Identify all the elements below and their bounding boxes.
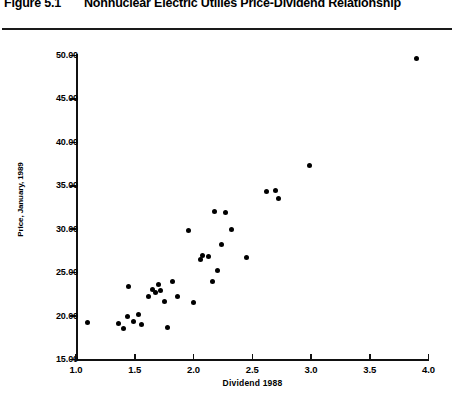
y-axis-tick-label-wrap: 35.00 xyxy=(0,180,78,191)
data-point xyxy=(210,279,215,284)
y-axis-tick-label: 35.00 xyxy=(34,180,78,190)
x-axis-tick-label: 1.5 xyxy=(115,364,155,375)
data-point xyxy=(200,253,205,258)
x-axis-tick-label: 4.0 xyxy=(409,364,449,375)
y-axis-tick-label: 20.00 xyxy=(34,311,78,321)
x-axis-tick-label: 3.5 xyxy=(350,364,390,375)
x-axis-title: Dividend 1988 xyxy=(76,378,429,388)
data-point xyxy=(85,320,90,325)
y-axis-tick-label-wrap: 30.00 xyxy=(0,224,78,235)
y-axis-tick-label: 30.00 xyxy=(34,224,78,234)
x-axis-tick xyxy=(369,354,371,361)
data-point xyxy=(212,209,217,214)
data-point xyxy=(116,321,121,326)
data-point xyxy=(175,294,180,299)
y-axis-tick-label: 25.00 xyxy=(34,267,78,277)
data-point xyxy=(276,196,281,201)
x-axis-tick xyxy=(252,354,254,361)
data-point xyxy=(206,254,211,259)
data-point xyxy=(139,322,144,327)
x-axis-tick xyxy=(75,354,77,361)
y-axis-tick-label: 15.00 xyxy=(34,354,78,364)
y-axis-tick-label: 45.00 xyxy=(34,93,78,103)
y-axis-tick-label-wrap: 25.00 xyxy=(0,267,78,278)
data-point xyxy=(307,163,312,168)
scatter-plot: 15.0020.0025.0030.0035.0040.0045.0050.00… xyxy=(0,0,454,403)
data-point xyxy=(126,284,131,289)
x-axis-tick xyxy=(193,354,195,361)
x-axis-tick xyxy=(310,354,312,361)
data-point xyxy=(136,312,141,317)
data-point xyxy=(186,228,191,233)
y-axis-tick-label: 50.00 xyxy=(34,50,78,60)
data-point xyxy=(223,210,228,215)
data-point xyxy=(156,282,161,287)
data-point xyxy=(162,299,167,304)
x-axis-tick-label: 2.5 xyxy=(232,364,272,375)
data-point xyxy=(219,242,224,247)
data-point xyxy=(215,268,220,273)
y-axis-title: Price, January, 1989 xyxy=(16,140,25,260)
data-point xyxy=(264,189,269,194)
data-point xyxy=(273,188,278,193)
x-axis-tick-label: 3.0 xyxy=(291,364,331,375)
data-point xyxy=(229,227,234,232)
data-point xyxy=(414,56,419,61)
data-point xyxy=(170,279,175,284)
x-axis-tick xyxy=(428,354,430,361)
y-axis-tick-label-wrap: 20.00 xyxy=(0,311,78,322)
data-point xyxy=(146,294,151,299)
data-point xyxy=(125,314,130,319)
y-axis-tick-label-wrap: 45.00 xyxy=(0,93,78,104)
data-point xyxy=(131,319,136,324)
x-axis-tick-label: 1.0 xyxy=(56,364,96,375)
y-axis-tick-label-wrap: 40.00 xyxy=(0,137,78,148)
data-point xyxy=(158,288,163,293)
x-axis-tick xyxy=(134,354,136,361)
y-axis-tick-label-wrap: 50.00 xyxy=(0,50,78,61)
x-axis-tick-label: 2.0 xyxy=(174,364,214,375)
data-point xyxy=(198,257,203,262)
data-point xyxy=(191,300,196,305)
data-point xyxy=(244,255,249,260)
data-point xyxy=(165,325,170,330)
y-axis-tick-label: 40.00 xyxy=(34,137,78,147)
data-point xyxy=(121,326,126,331)
